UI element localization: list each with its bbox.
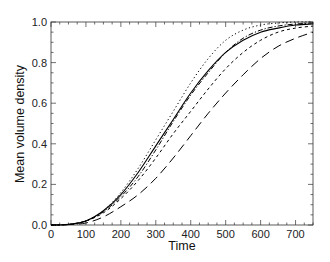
- y-tick-label: 0.4: [32, 138, 47, 150]
- axis-ticks: [51, 22, 313, 225]
- plot-frame: [51, 22, 313, 225]
- series-dash-dot: [51, 23, 313, 225]
- y-tick-label: 0.2: [32, 178, 47, 190]
- data-series: [51, 22, 313, 225]
- series-solid: [51, 24, 313, 225]
- y-tick-label: 0.8: [32, 57, 47, 69]
- x-tick-label: 300: [147, 228, 165, 240]
- series-dotted: [51, 22, 313, 225]
- series-short-dash: [51, 26, 313, 225]
- x-axis-label: Time: [168, 239, 195, 253]
- x-tick-label: 700: [286, 228, 304, 240]
- y-tick-label: 1.0: [32, 16, 47, 28]
- x-tick-label: 100: [77, 228, 95, 240]
- x-tick-label: 600: [251, 228, 269, 240]
- y-axis-label: Mean volume density: [13, 64, 27, 183]
- x-tick-label: 0: [48, 228, 54, 240]
- y-tick-label: 0.0: [32, 219, 47, 231]
- x-tick-label: 200: [112, 228, 130, 240]
- y-tick-label: 0.6: [32, 97, 47, 109]
- line-chart: 01002003004005006007000.00.20.40.60.81.0…: [0, 0, 330, 262]
- plot-border: [51, 22, 313, 225]
- series-long-dash: [51, 32, 313, 225]
- x-tick-label: 500: [216, 228, 234, 240]
